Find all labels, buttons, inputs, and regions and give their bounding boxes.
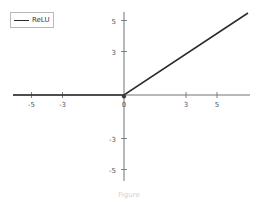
x-tick-label: -3 — [59, 101, 66, 109]
x-tick-label: 3 — [184, 101, 188, 109]
y-tick-label: 3 — [112, 49, 116, 57]
relu-plot-figure: -5 -3 3 5 5 3 -3 -5 0 ReLU Figure — [0, 0, 258, 203]
origin-tick-label: 0 — [122, 101, 126, 109]
legend: ReLU — [10, 12, 54, 28]
x-tick-label: 5 — [215, 101, 219, 109]
y-tick-label: -3 — [109, 136, 116, 144]
y-tick-label: -5 — [109, 167, 116, 175]
y-tick-label: 5 — [112, 18, 116, 26]
plot-canvas: -5 -3 3 5 5 3 -3 -5 0 — [0, 0, 258, 203]
origin-marker — [122, 94, 126, 98]
legend-line-swatch — [14, 20, 29, 21]
x-tick-label: -5 — [28, 101, 35, 109]
figure-caption: Figure — [0, 190, 258, 201]
legend-label: ReLU — [32, 17, 50, 24]
